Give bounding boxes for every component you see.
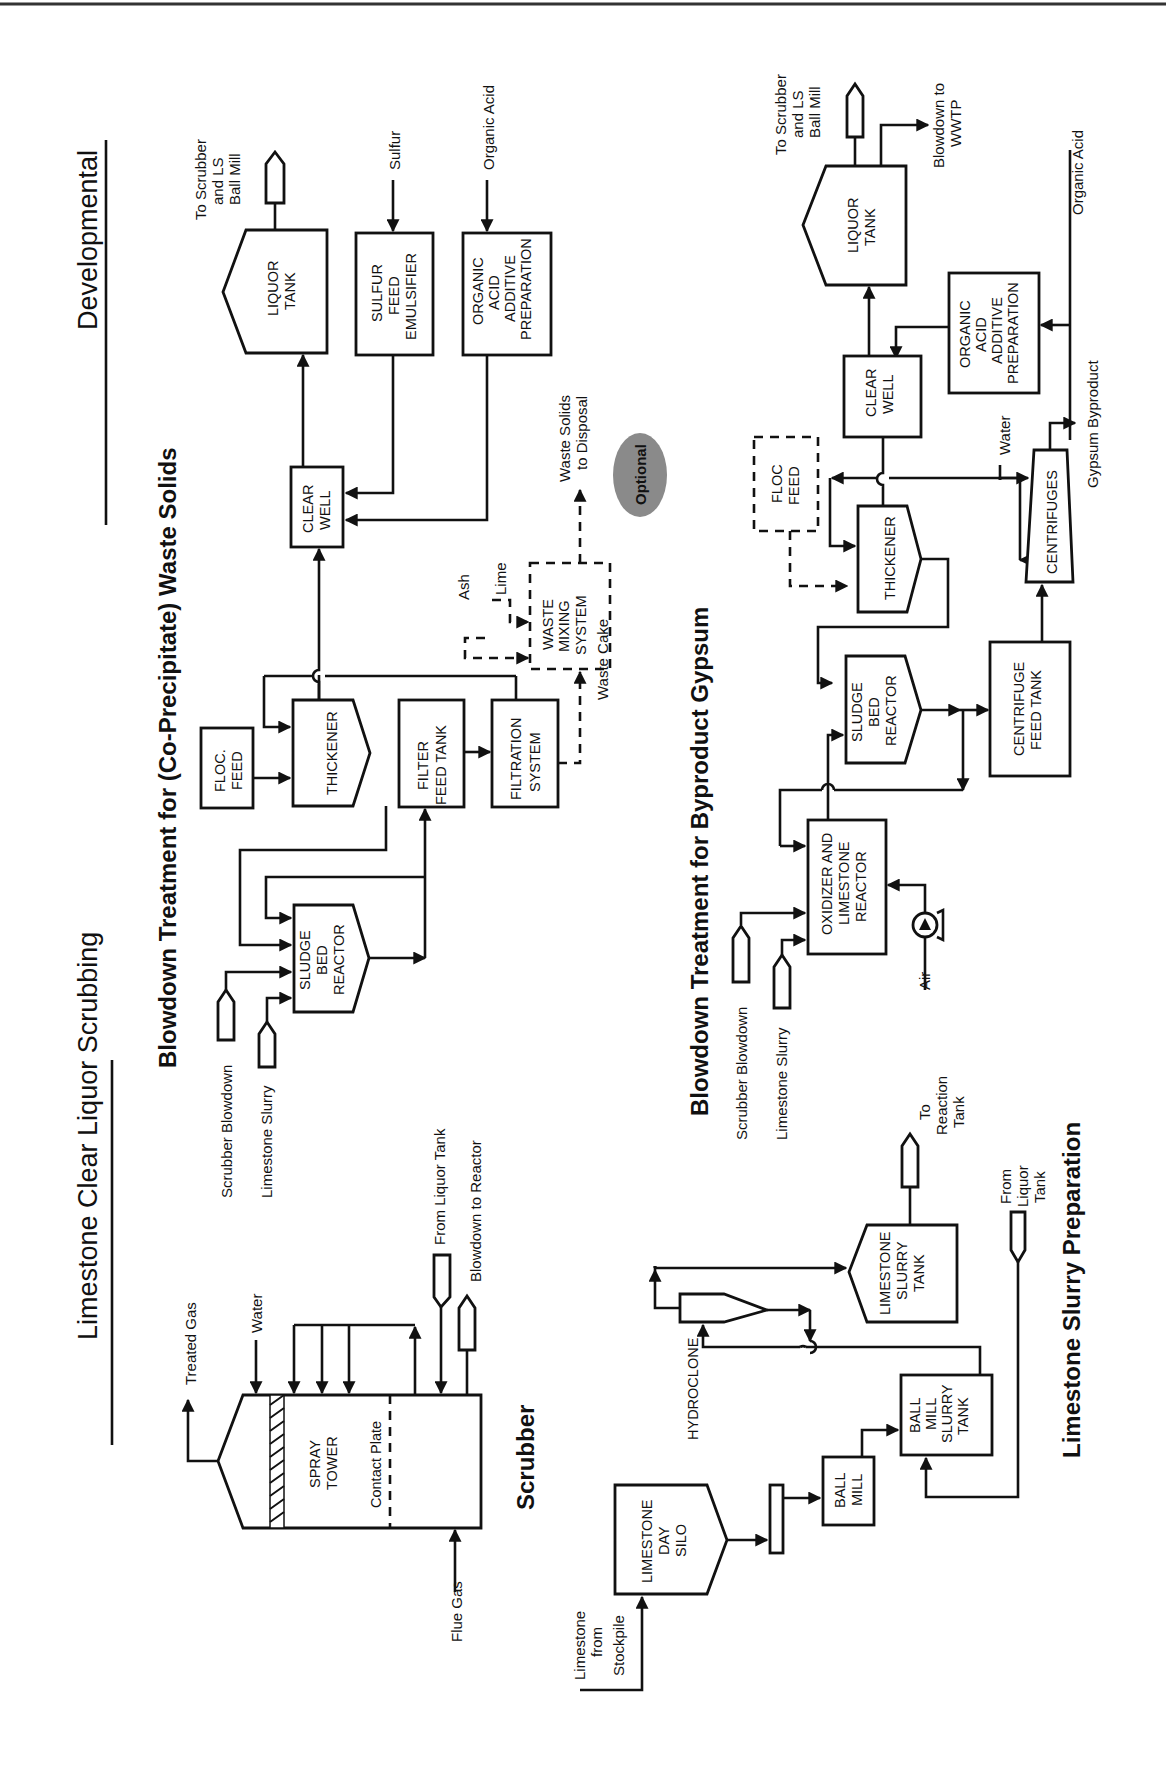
section-waste-solids: Blowdown Treatment for (Co-Precipitate) …	[154, 85, 667, 1198]
svg-text:BALL: BALL	[907, 1398, 923, 1433]
diagram-svg: Limestone Clear Liquor Scrubbing Develop…	[0, 0, 1166, 1769]
svg-text:ADDITIVE: ADDITIVE	[502, 255, 518, 322]
svg-text:To: To	[916, 1104, 933, 1120]
outlet-connector	[847, 84, 863, 137]
svg-text:Sulfur: Sulfur	[386, 131, 403, 170]
svg-text:To Scrubber: To Scrubber	[192, 139, 209, 220]
svg-text:Flue Gas: Flue Gas	[448, 1581, 465, 1642]
svg-text:REACTOR: REACTOR	[331, 924, 347, 995]
section-scrubber: SPRAY TOWER Contact Plate Treated Gas Wa…	[182, 1128, 539, 1642]
svg-text:ACID: ACID	[973, 317, 989, 352]
svg-text:Air: Air	[916, 972, 933, 990]
svg-text:Tank: Tank	[1031, 1171, 1048, 1203]
section-title: Blowdown Treatment for Byproduct Gypsum	[686, 607, 713, 1116]
svg-text:SYSTEM: SYSTEM	[527, 732, 543, 792]
svg-text:Ball Mill: Ball Mill	[806, 86, 823, 138]
svg-text:LIMESTONE: LIMESTONE	[639, 1499, 655, 1583]
svg-text:DAY: DAY	[656, 1526, 672, 1555]
svg-text:REACTOR: REACTOR	[853, 851, 869, 922]
svg-text:Organic Acid: Organic Acid	[480, 85, 497, 170]
svg-text:SLUDGE: SLUDGE	[849, 682, 865, 742]
svg-text:Organic Acid: Organic Acid	[1069, 130, 1086, 215]
section-slurry-prep: Limestone Slurry Preparation HYDROCLONE …	[571, 1076, 1085, 1690]
svg-text:FEED: FEED	[786, 466, 802, 505]
svg-text:From Liquor Tank: From Liquor Tank	[431, 1128, 448, 1245]
svg-text:and LS: and LS	[789, 90, 806, 138]
svg-text:Reaction: Reaction	[933, 1076, 950, 1135]
svg-text:MILL: MILL	[923, 1398, 939, 1430]
header: Limestone Clear Liquor Scrubbing Develop…	[73, 140, 112, 1445]
svg-text:TANK: TANK	[955, 1397, 971, 1435]
svg-text:REACTOR: REACTOR	[883, 675, 899, 746]
svg-text:OXIDIZER AND: OXIDIZER AND	[819, 833, 835, 935]
svg-text:WELL: WELL	[880, 375, 896, 415]
svg-text:LIMESTONE: LIMESTONE	[877, 1231, 893, 1315]
svg-text:LIMESTONE: LIMESTONE	[836, 841, 852, 925]
svg-text:Treated Gas: Treated Gas	[182, 1302, 199, 1385]
svg-text:Blowdown to: Blowdown to	[930, 83, 947, 168]
svg-text:Limestone Slurry: Limestone Slurry	[258, 1085, 275, 1198]
svg-text:BED: BED	[866, 697, 882, 727]
svg-text:FLOC.: FLOC.	[212, 749, 228, 792]
svg-text:CENTRIFUGES: CENTRIFUGES	[1044, 470, 1060, 574]
svg-text:THICKENER: THICKENER	[324, 711, 340, 795]
svg-text:to Disposal: to Disposal	[573, 396, 590, 470]
svg-text:Scrubber Blowdown: Scrubber Blowdown	[218, 1065, 235, 1198]
svg-text:and LS: and LS	[209, 157, 226, 205]
svg-text:Liquor: Liquor	[1014, 1165, 1031, 1207]
svg-text:CENTRIFUGE: CENTRIFUGE	[1011, 661, 1027, 756]
mist-eliminator-hatch	[270, 1395, 284, 1528]
svg-text:PREPARATION: PREPARATION	[1005, 282, 1021, 384]
svg-text:EMULSIFIER: EMULSIFIER	[403, 253, 419, 340]
svg-text:Water: Water	[248, 1294, 265, 1333]
svg-text:ORGANIC: ORGANIC	[957, 300, 973, 368]
svg-text:SYSTEM: SYSTEM	[573, 595, 589, 655]
inlet-connector	[774, 955, 790, 1008]
hydroclone	[680, 1294, 767, 1322]
inlet-connector	[434, 1255, 450, 1307]
filter-feed-tank	[399, 700, 464, 807]
svg-text:HYDROCLONE: HYDROCLONE	[685, 1337, 701, 1440]
svg-text:ORGANIC: ORGANIC	[470, 257, 486, 325]
svg-text:PREPARATION: PREPARATION	[518, 238, 534, 340]
inlet-connector	[218, 990, 234, 1040]
svg-text:ACID: ACID	[486, 275, 502, 310]
svg-text:SULFUR: SULFUR	[369, 264, 385, 322]
svg-text:Limestone: Limestone	[571, 1611, 588, 1680]
feeder	[770, 1485, 783, 1553]
spray-tower	[218, 1395, 481, 1528]
svg-text:SLUDGE: SLUDGE	[297, 930, 313, 990]
svg-text:SLURRY: SLURRY	[894, 1241, 910, 1300]
section-title: Blowdown Treatment for (Co-Precipitate) …	[154, 447, 181, 1068]
svg-text:THICKENER: THICKENER	[882, 516, 898, 600]
category-label: Developmental	[73, 150, 103, 330]
outlet-connector	[902, 1134, 918, 1187]
svg-text:SILO: SILO	[673, 1524, 689, 1557]
svg-text:BALL: BALL	[832, 1473, 848, 1508]
svg-text:To Scrubber: To Scrubber	[772, 74, 789, 155]
filtration-system	[492, 700, 558, 807]
outlet-connector	[459, 1296, 475, 1350]
section-byproduct-gypsum: Blowdown Treatment for Byproduct Gypsum …	[686, 74, 1101, 1140]
unit-label: LIQUOR	[265, 260, 281, 316]
svg-text:Gypsum Byproduct: Gypsum Byproduct	[1084, 360, 1101, 488]
section-title: Limestone Slurry Preparation	[1058, 1122, 1085, 1458]
svg-text:Blowdown to Reactor: Blowdown to Reactor	[467, 1140, 484, 1282]
outlet-connector	[266, 152, 284, 203]
svg-text:FEED TANK: FEED TANK	[1028, 670, 1044, 750]
svg-text:WASTE: WASTE	[540, 599, 556, 650]
svg-text:TOWER: TOWER	[324, 1436, 340, 1490]
svg-text:ADDITIVE: ADDITIVE	[989, 297, 1005, 364]
svg-text:BED: BED	[314, 945, 330, 975]
svg-text:FEED: FEED	[229, 751, 245, 790]
svg-text:Scrubber Blowdown: Scrubber Blowdown	[733, 1007, 750, 1140]
svg-text:FEED: FEED	[386, 276, 402, 315]
svg-text:FEED TANK: FEED TANK	[433, 725, 449, 805]
svg-text:CLEAR: CLEAR	[863, 369, 879, 417]
svg-text:TANK: TANK	[862, 208, 878, 246]
svg-text:Ball Mill: Ball Mill	[226, 153, 243, 205]
svg-text:WWTP: WWTP	[947, 100, 964, 147]
svg-text:WELL: WELL	[317, 491, 333, 531]
svg-text:Water: Water	[996, 416, 1013, 455]
svg-text:FILTRATION: FILTRATION	[508, 718, 524, 800]
